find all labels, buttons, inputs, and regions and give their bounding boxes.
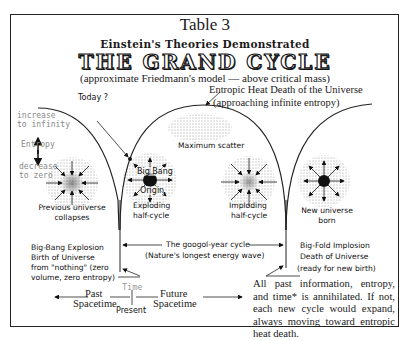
present-label: Present <box>116 306 146 315</box>
new-universe-burst <box>298 155 350 207</box>
big-bang-explosion-line1: Big-Bang Explosion <box>31 243 104 252</box>
big-bang-origin-label: Big Bang <box>137 167 173 176</box>
googol-cycle-sublabel: (Nature's longest energy wave) <box>145 251 264 260</box>
big-bang-origin-sublabel: Origin <box>140 186 164 195</box>
previous-universe-label: Previous universe <box>32 203 112 212</box>
future-spacetime-label: Spacetime <box>153 298 197 309</box>
annihilation-note: All past information, entropy, and time*… <box>253 278 395 341</box>
new-universe-sublabel: born <box>296 216 358 225</box>
imploding-sublabel: half-cycle <box>231 211 267 220</box>
maximum-scatter-label: Maximum scatter <box>178 141 244 150</box>
exploding-label: Exploding <box>133 201 170 210</box>
today-label: Today ? <box>78 93 108 102</box>
big-fold-implosion-line3: (ready for new birth) <box>297 264 376 273</box>
entropy-increase-line1: increase <box>17 111 56 120</box>
entropy-label: Entropy <box>21 140 55 149</box>
big-fold-implosion-line1: Big-Fold Implosion <box>300 241 370 250</box>
time-label: Time <box>122 282 142 292</box>
imploding-label: Imploding <box>229 201 267 210</box>
big-bang-explosion-line2: Birth of Universe <box>31 253 95 262</box>
entropy-increase-line2: to infinity <box>17 120 70 129</box>
explosion-burst <box>123 153 177 207</box>
previous-universe-sublabel: collapses <box>32 213 112 222</box>
new-universe-label: New universe <box>296 206 358 215</box>
entropy-decrease-line1: decrease <box>19 162 58 171</box>
big-bang-explosion-line4: volume, zero entropy) <box>31 273 115 282</box>
googol-cycle-label: The googol-year cycle <box>166 240 250 249</box>
entropy-decrease-line2: to zero <box>19 171 53 180</box>
past-spacetime-label: Spacetime <box>73 298 117 309</box>
big-fold-implosion-line2: Death of Universe <box>300 252 369 261</box>
exploding-sublabel: half-cycle <box>133 211 169 220</box>
big-bang-explosion-line3: from "nothing" (zero <box>31 263 109 272</box>
